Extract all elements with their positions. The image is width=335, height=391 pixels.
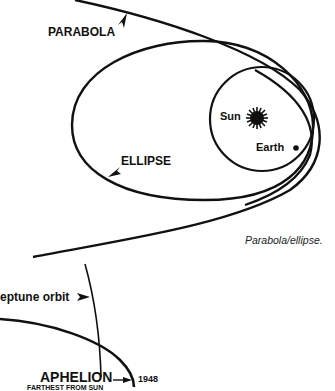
sun-label: Sun: [220, 111, 241, 122]
aphelion-label: APHELION: [40, 370, 112, 384]
neptune-orbit-label: eptune orbit: [0, 291, 69, 303]
ellipse-curve: [72, 41, 313, 200]
sun-icon: [246, 107, 268, 129]
year-label: 1948: [138, 375, 158, 384]
ellipse-label: ELLIPSE: [121, 155, 171, 167]
parabola-label: PARABOLA: [48, 26, 115, 38]
figure-caption: Parabola/ellipse.: [245, 235, 323, 246]
earth-label: Earth: [256, 142, 284, 153]
aphelion-arrow-icon: [123, 377, 132, 383]
ellipse-arrow-icon: [108, 167, 121, 177]
parabola-arrow-icon: [118, 13, 127, 28]
aphelion-sublabel: FARTHEST FROM SUN: [27, 384, 103, 391]
neptune-arrow-icon: [77, 293, 90, 301]
earth-icon: [293, 145, 299, 151]
neptune-orbit-curve: [85, 264, 101, 377]
